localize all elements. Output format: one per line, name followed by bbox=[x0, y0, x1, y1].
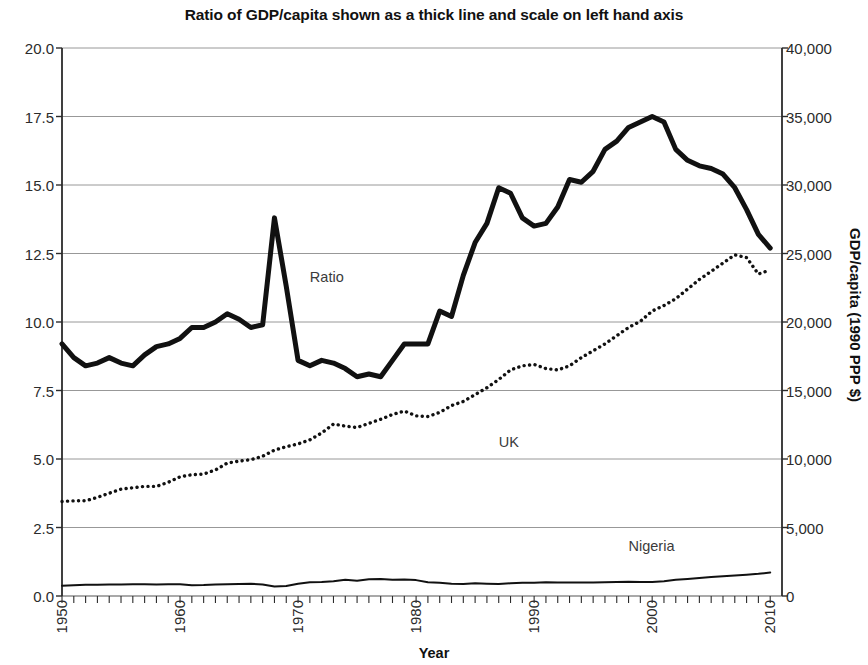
x-axis-tick-label: 1960 bbox=[171, 600, 188, 633]
right-axis-tick-label: 30,000 bbox=[786, 177, 866, 194]
chart-container: Ratio of GDP/capita shown as a thick lin… bbox=[0, 0, 868, 665]
right-axis-tick-label: 20,000 bbox=[786, 314, 866, 331]
x-axis-title: Year bbox=[0, 645, 868, 661]
right-axis-tick-label: 40,000 bbox=[786, 40, 866, 57]
x-axis-tick-label: 1950 bbox=[53, 600, 70, 633]
left-axis-tick-label: 17.5 bbox=[0, 108, 54, 125]
right-axis-tick-label: 5,000 bbox=[786, 519, 866, 536]
left-axis-tick-label: 15.0 bbox=[0, 177, 54, 194]
plot-area bbox=[0, 0, 868, 665]
left-axis-tick-label: 10.0 bbox=[0, 314, 54, 331]
x-axis-tick-label: 1970 bbox=[289, 600, 306, 633]
x-axis-tick-label: 2010 bbox=[761, 600, 778, 633]
left-axis-tick-label: 2.5 bbox=[0, 519, 54, 536]
left-axis-tick-label: 20.0 bbox=[0, 40, 54, 57]
right-axis-tick-label: 35,000 bbox=[786, 108, 866, 125]
right-axis-tick-label: 15,000 bbox=[786, 382, 866, 399]
right-axis-tick-label: 0 bbox=[786, 588, 866, 605]
left-axis-tick-label: 12.5 bbox=[0, 245, 54, 262]
x-axis-tick-label: 2000 bbox=[643, 600, 660, 633]
left-axis-tick-label: 5.0 bbox=[0, 451, 54, 468]
series-label-ratio: Ratio bbox=[310, 269, 344, 285]
right-axis-tick-label: 10,000 bbox=[786, 451, 866, 468]
right-axis-tick-label: 25,000 bbox=[786, 245, 866, 262]
series-label-uk: UK bbox=[499, 434, 519, 450]
series-label-nigeria: Nigeria bbox=[629, 538, 675, 554]
x-axis-tick-label: 1980 bbox=[407, 600, 424, 633]
left-axis-tick-label: 7.5 bbox=[0, 382, 54, 399]
left-axis-tick-label: 0.0 bbox=[0, 588, 54, 605]
x-axis-tick-label: 1990 bbox=[525, 600, 542, 633]
